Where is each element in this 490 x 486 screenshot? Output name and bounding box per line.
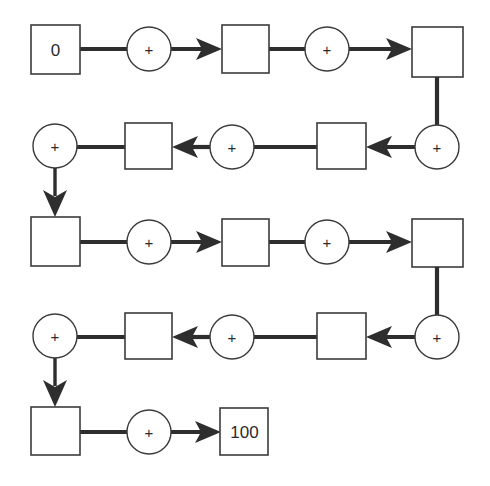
node-box-3[interactable] <box>412 27 463 77</box>
node-label-op-10: + <box>433 329 442 346</box>
node-label-op-11: + <box>145 424 154 441</box>
node-label-op-9: + <box>228 329 237 346</box>
node-box-7[interactable] <box>222 219 269 266</box>
node-label-op-7: + <box>323 234 332 251</box>
node-label-op-8: + <box>51 328 60 345</box>
node-label-start: 0 <box>51 41 60 60</box>
node-box-6[interactable] <box>31 217 80 266</box>
node-label-finish: 100 <box>230 423 258 442</box>
flow-chain-diagram: 0 + + + + + <box>0 0 490 486</box>
node-label-op-5: + <box>433 139 442 156</box>
diagram-canvas: 0 + + + + + <box>0 0 490 486</box>
node-box-2[interactable] <box>222 25 269 73</box>
node-box-11[interactable] <box>31 407 80 455</box>
node-label-op-6: + <box>145 234 154 251</box>
node-label-op-2: + <box>323 41 332 58</box>
node-box-10[interactable] <box>317 313 366 359</box>
node-box-4[interactable] <box>125 123 172 169</box>
node-box-9[interactable] <box>125 313 172 359</box>
node-box-8[interactable] <box>412 219 463 267</box>
node-label-op-4: + <box>228 139 237 156</box>
node-box-5[interactable] <box>317 123 366 169</box>
node-label-op-3: + <box>51 138 60 155</box>
node-label-op-1: + <box>145 41 154 58</box>
